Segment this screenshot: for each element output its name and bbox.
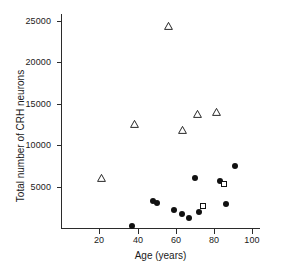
y-tick-label-20000: 20000 xyxy=(5,58,51,67)
y-tick-20000 xyxy=(57,62,62,63)
plot-area xyxy=(61,14,260,228)
data-point-circle xyxy=(154,200,160,206)
x-tick-label-40: 40 xyxy=(123,236,153,245)
data-point-circle xyxy=(179,211,185,217)
y-axis-title: Total number of CRH neurons xyxy=(14,0,28,272)
x-tick-label-20: 20 xyxy=(84,236,114,245)
y-tick-label-10000: 10000 xyxy=(5,141,51,150)
x-tick-label-60: 60 xyxy=(161,236,191,245)
x-tick-60 xyxy=(176,229,177,234)
y-tick-10000 xyxy=(57,145,62,146)
x-tick-40 xyxy=(138,229,139,234)
data-point-circle xyxy=(196,209,202,215)
y-tick-15000 xyxy=(57,104,62,105)
scatter-plot-figure: 500010000150002000025000 20406080100 Age… xyxy=(0,0,287,272)
data-point-circle xyxy=(129,223,135,229)
x-tick-80 xyxy=(214,229,215,234)
y-tick-5000 xyxy=(57,187,62,188)
data-point-circle xyxy=(192,175,198,181)
data-point-square xyxy=(200,203,206,209)
y-tick-label-15000: 15000 xyxy=(5,100,51,109)
y-tick-label-5000: 5000 xyxy=(5,183,51,192)
y-tick-label-25000: 25000 xyxy=(5,17,51,26)
data-point-circle xyxy=(223,201,229,207)
y-tick-25000 xyxy=(57,21,62,22)
x-tick-20 xyxy=(99,229,100,234)
data-point-circle xyxy=(232,163,238,169)
data-point-square xyxy=(221,181,227,187)
x-tick-100 xyxy=(252,229,253,234)
x-axis-line xyxy=(61,228,260,229)
y-axis-line xyxy=(61,14,62,228)
x-tick-label-80: 80 xyxy=(199,236,229,245)
x-axis-title: Age (years) xyxy=(61,250,260,261)
x-tick-label-100: 100 xyxy=(237,236,267,245)
